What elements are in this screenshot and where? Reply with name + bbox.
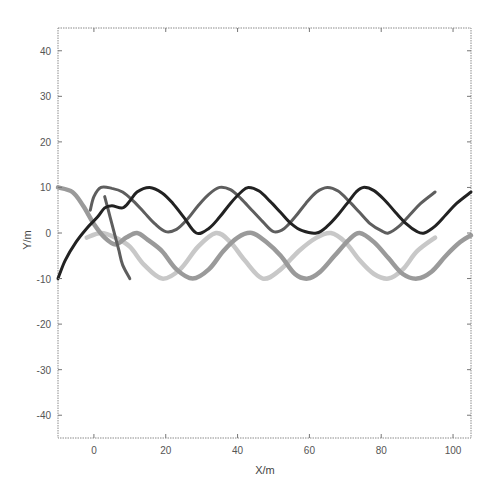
x-tick-label: 100 bbox=[445, 445, 462, 456]
y-tick-label: -20 bbox=[37, 319, 52, 330]
trajectory-chart: 020406080100 403020100-10-20-30-40 X/m Y… bbox=[0, 0, 500, 496]
y-tick-label: 0 bbox=[45, 228, 51, 239]
y-tick-label: -30 bbox=[37, 365, 52, 376]
y-tick-label: 10 bbox=[40, 182, 52, 193]
x-tick-label: 40 bbox=[232, 445, 244, 456]
x-tick-label: 80 bbox=[376, 445, 388, 456]
y-axis-label: Y/m bbox=[21, 230, 33, 250]
x-tick-label: 60 bbox=[304, 445, 316, 456]
x-axis-label: X/m bbox=[255, 464, 275, 476]
y-tick-label: 40 bbox=[40, 46, 52, 57]
y-tick-label: -10 bbox=[37, 274, 52, 285]
plot-area bbox=[58, 28, 471, 438]
x-tick-label: 0 bbox=[91, 445, 97, 456]
x-tick-label: 20 bbox=[160, 445, 172, 456]
plot-frame bbox=[58, 28, 471, 438]
y-tick-label: -40 bbox=[37, 410, 52, 421]
y-tick-label: 20 bbox=[40, 137, 52, 148]
y-tick-label: 30 bbox=[40, 91, 52, 102]
